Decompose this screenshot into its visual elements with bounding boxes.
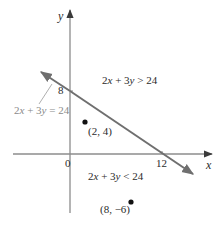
above-part-5: > 24 bbox=[135, 74, 158, 86]
eq-part-rhs: = 24 bbox=[47, 104, 70, 116]
x-intercept-label: 12 bbox=[156, 158, 167, 169]
eq-part-coef-y: + 3 bbox=[24, 104, 41, 116]
point-2-4 bbox=[82, 119, 87, 124]
boundary-equation-label: 2x + 3y = 24 bbox=[14, 105, 69, 116]
equation-leader-line bbox=[39, 84, 52, 104]
below-part-5: < 24 bbox=[121, 170, 144, 182]
boundary-line bbox=[41, 72, 70, 91]
point-label-2-4: (2, 4) bbox=[88, 126, 112, 137]
y-axis-label: y bbox=[58, 10, 63, 22]
region-below-label: 2x + 3y < 24 bbox=[88, 171, 143, 182]
x-axis-label: x bbox=[206, 159, 211, 171]
above-part-3: + 3 bbox=[112, 74, 129, 86]
below-part-3: + 3 bbox=[98, 170, 115, 182]
inequality-graph: y x 0 12 8 2x + 3y = 24 2x + 3y > 24 2x … bbox=[0, 0, 223, 231]
y-intercept-label: 8 bbox=[58, 85, 64, 96]
point-label-8-neg6: (8, −6) bbox=[100, 204, 130, 215]
origin-label: 0 bbox=[65, 158, 71, 169]
region-above-label: 2x + 3y > 24 bbox=[102, 75, 157, 86]
